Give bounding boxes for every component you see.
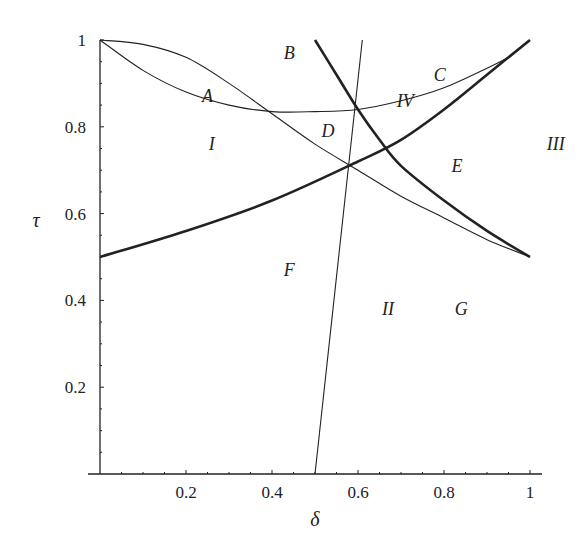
x-tick-label: 0.8 [433,483,454,502]
curve-5 [315,40,530,257]
region-label-III: III [546,134,566,154]
y-tick-label: 0.4 [65,291,87,310]
y-tick-label: 0.8 [65,118,86,137]
y-axis-title: τ [32,209,40,231]
curve-4 [100,40,530,257]
region-label-IV: IV [396,91,416,111]
region-label-A: A [201,86,214,106]
y-tick-label: 1 [78,31,87,50]
region-label-G: G [455,299,468,319]
curves [100,40,530,474]
x-tick-label: 1 [526,483,535,502]
x-tick-label: 0.4 [261,483,283,502]
region-label-C: C [434,65,447,85]
region-label-II: II [381,299,395,319]
chart: 0.20.40.60.810.20.40.60.81δτ ABCDEFGIIII… [0,0,588,558]
axes: 0.20.40.60.810.20.40.60.81δτ [32,31,542,530]
region-label-F: F [283,260,296,280]
curve-2 [100,40,530,257]
x-tick-label: 0.6 [347,483,368,502]
y-tick-label: 0.2 [65,378,86,397]
x-axis-title: δ [310,508,320,530]
x-tick-label: 0.2 [175,483,196,502]
region-label-I: I [208,134,216,154]
region-label-B: B [284,43,295,63]
region-label-D: D [320,121,334,141]
y-tick-label: 0.6 [65,205,86,224]
region-labels: ABCDEFGIIIIIIIV [201,43,566,319]
curve-1 [100,40,509,112]
region-label-E: E [450,156,462,176]
